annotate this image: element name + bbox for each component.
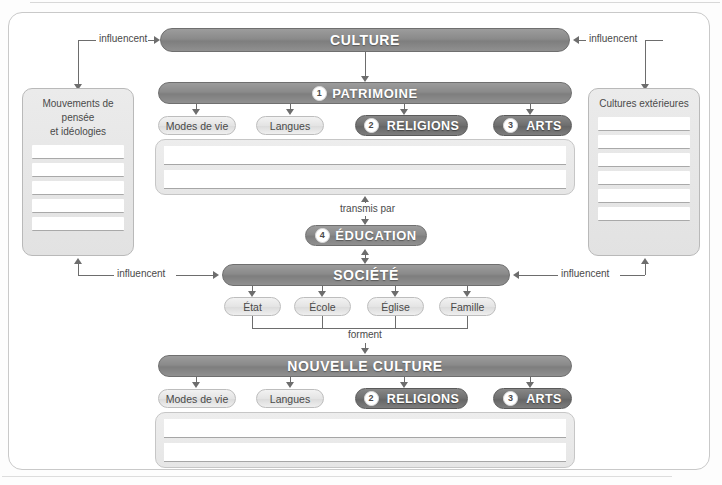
- societe-bar[interactable]: SOCIÉTÉ: [222, 264, 510, 286]
- nouvelle-culture-bar[interactable]: NOUVELLE CULTURE: [158, 355, 572, 377]
- societe-item-ecole[interactable]: École: [294, 297, 351, 316]
- arts-number-badge: 3: [503, 118, 518, 133]
- nouvelle-culture-item-arts[interactable]: 3 ARTS: [493, 388, 572, 409]
- edge-label-transmis-par: transmis par: [337, 203, 398, 214]
- conn-influencent-top-left-down: [78, 40, 79, 88]
- right-box-blank-line[interactable]: [598, 117, 690, 131]
- patrimoine-item-religions[interactable]: 2 RELIGIONS: [355, 115, 468, 136]
- conn-influencent-bottom-left-up: [78, 262, 79, 275]
- nouvelle-culture-item-langues[interactable]: Langues: [256, 389, 324, 408]
- societe-item-label: État: [243, 301, 262, 313]
- patrimoine-notes-line[interactable]: [164, 146, 566, 165]
- patrimoine-bar-label: PATRIMOINE: [332, 86, 418, 101]
- patrimoine-item-label: ARTS: [526, 119, 562, 133]
- right-box-blank-line[interactable]: [598, 153, 690, 167]
- nouvelle-culture-item-religions[interactable]: 2 RELIGIONS: [355, 388, 468, 409]
- nouvelle-culture-item-label: Langues: [270, 393, 310, 405]
- education-bar-label: ÉDUCATION: [335, 228, 417, 243]
- arrow-influencent-top-left: [154, 36, 160, 44]
- page-bottom-edge: [2, 476, 672, 477]
- arrow-patrimoine-item-2: [286, 109, 294, 115]
- nouvelle-culture-notes-line[interactable]: [164, 419, 566, 438]
- conn-influencent-bottom-left-b: [176, 275, 216, 276]
- right-box-title: Cultures extérieures: [598, 97, 690, 111]
- conn-influencent-top-left-a: [78, 40, 96, 41]
- edge-label-influencent-bottom-right: influencent: [558, 268, 612, 279]
- societe-item-eglise[interactable]: Église: [367, 297, 424, 316]
- education-number-badge: 4: [315, 228, 330, 243]
- right-box-blank-line[interactable]: [598, 207, 690, 221]
- education-bar[interactable]: 4 ÉDUCATION: [305, 225, 427, 246]
- patrimoine-item-arts[interactable]: 3 ARTS: [493, 115, 572, 136]
- religions-number-badge: 2: [364, 391, 379, 406]
- societe-item-label: Église: [381, 301, 410, 313]
- societe-item-famille[interactable]: Famille: [439, 297, 496, 316]
- left-box-blank-line[interactable]: [32, 217, 124, 231]
- nouvelle-culture-notes-line[interactable]: [164, 443, 566, 462]
- patrimoine-notes-box[interactable]: [155, 139, 575, 195]
- edge-label-influencent-top-left: influencent: [96, 33, 150, 44]
- societe-bar-label: SOCIÉTÉ: [333, 267, 399, 283]
- conn-influencent-bottom-right-b: [620, 275, 645, 276]
- arrow-transmis-par-up: [361, 196, 369, 202]
- conn-influencent-bottom-left-a: [78, 275, 114, 276]
- arrow-nouvelle-item-2: [286, 382, 294, 388]
- patrimoine-item-langues[interactable]: Langues: [256, 116, 324, 135]
- societe-item-label: École: [309, 301, 335, 313]
- arrow-patrimoine-item-1: [192, 109, 200, 115]
- left-box-mouvements-de-pensee[interactable]: Mouvements de pensée et idéologies: [22, 88, 134, 256]
- conn-influencent-bottom-right-a: [519, 275, 559, 276]
- left-box-title: Mouvements de pensée et idéologies: [32, 97, 124, 139]
- patrimoine-item-label: Langues: [270, 120, 310, 132]
- conn-influencent-top-right-down: [645, 40, 646, 88]
- arrow-influencent-bottom-left: [213, 271, 219, 279]
- nouvelle-culture-notes-box[interactable]: [155, 412, 575, 468]
- edge-label-influencent-top-right: influencent: [586, 33, 640, 44]
- diagram-canvas: CULTURE influencent influencent Mouvemen…: [0, 0, 722, 485]
- patrimoine-item-label: Modes de vie: [166, 120, 228, 132]
- arrow-nouvelle-item-1: [192, 382, 200, 388]
- culture-bar[interactable]: CULTURE: [160, 28, 570, 52]
- edge-label-forment: forment: [345, 329, 385, 340]
- patrimoine-bar[interactable]: 1 PATRIMOINE: [158, 82, 572, 104]
- left-box-blank-line[interactable]: [32, 199, 124, 213]
- conn-bracket-3: [395, 316, 396, 328]
- left-box-blank-line[interactable]: [32, 163, 124, 177]
- left-box-title-line2: et idéologies: [50, 126, 106, 137]
- arrow-right-box-up: [641, 258, 649, 264]
- right-box-blank-line[interactable]: [598, 189, 690, 203]
- conn-bracket-1: [252, 316, 253, 328]
- edge-label-influencent-bottom-left: influencent: [114, 268, 168, 279]
- page-top-edge: [30, 2, 720, 3]
- religions-number-badge: 2: [364, 118, 379, 133]
- left-box-title-line1: Mouvements de pensée: [42, 98, 113, 123]
- patrimoine-number-badge: 1: [312, 86, 327, 101]
- right-box-blank-line[interactable]: [598, 171, 690, 185]
- nouvelle-culture-item-label: ARTS: [526, 392, 562, 406]
- culture-bar-label: CULTURE: [330, 32, 400, 48]
- nouvelle-culture-item-label: Modes de vie: [166, 393, 228, 405]
- left-box-blank-line[interactable]: [32, 181, 124, 195]
- right-box-title-line1: Cultures extérieures: [599, 98, 688, 109]
- societe-item-etat[interactable]: État: [224, 297, 281, 316]
- right-box-blank-line[interactable]: [598, 135, 690, 149]
- right-box-cultures-exterieures[interactable]: Cultures extérieures: [588, 88, 700, 256]
- arts-number-badge: 3: [503, 391, 518, 406]
- left-box-blank-line[interactable]: [32, 145, 124, 159]
- nouvelle-culture-item-label: RELIGIONS: [387, 392, 459, 406]
- conn-bracket-2: [322, 316, 323, 328]
- societe-item-label: Famille: [451, 301, 485, 313]
- conn-bracket-4: [467, 316, 468, 328]
- patrimoine-item-modes-de-vie[interactable]: Modes de vie: [158, 116, 236, 135]
- patrimoine-item-label: RELIGIONS: [387, 119, 459, 133]
- patrimoine-notes-line[interactable]: [164, 170, 566, 189]
- nouvelle-culture-bar-label: NOUVELLE CULTURE: [287, 358, 443, 374]
- nouvelle-culture-item-modes-de-vie[interactable]: Modes de vie: [158, 389, 236, 408]
- conn-influencent-top-right-b: [645, 40, 663, 41]
- arrow-forment: [361, 348, 369, 354]
